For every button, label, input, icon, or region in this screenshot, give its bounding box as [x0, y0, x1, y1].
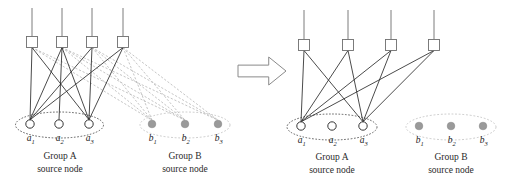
hollow-node-circle	[26, 120, 34, 128]
dashed-link-r1-b1	[32, 48, 152, 121]
link-r3-a1	[301, 51, 391, 122]
group-caption-group-b: Group Bsource node	[428, 152, 474, 175]
transition-arrow	[238, 57, 286, 85]
node-label-b2: b2	[182, 133, 191, 145]
hollow-node-circle	[328, 122, 336, 130]
node-label-subscript: 1	[154, 138, 157, 145]
filled-node-circle	[148, 120, 156, 128]
panel-before: a1a2a3Group Asource nodeb1b2b3Group Bsou…	[16, 8, 231, 174]
relay-r2[interactable]	[57, 8, 68, 48]
group-title: Group A	[44, 151, 77, 161]
topology-figure: a1a2a3Group Asource nodeb1b2b3Group Bsou…	[0, 0, 518, 190]
source-node-a1[interactable]: a1	[26, 120, 35, 145]
link-r1-a1	[301, 51, 304, 122]
node-label-subscript: 1	[32, 138, 35, 145]
solid-links-after	[301, 51, 434, 122]
link-r3-a1	[30, 48, 92, 120]
source-node-a2[interactable]: a2	[55, 120, 65, 145]
node-label-a1: a1	[27, 133, 35, 145]
figure-canvas: a1a2a3Group Asource nodeb1b2b3Group Bsou…	[0, 0, 518, 190]
group-subtitle: source node	[309, 165, 355, 175]
dashed-link-r4-b3	[123, 48, 218, 121]
dashed-link-r4-b2	[123, 48, 185, 121]
relay-node-square	[87, 37, 98, 48]
relay-r3[interactable]	[386, 10, 397, 51]
node-label-b3: b3	[215, 133, 224, 145]
node-label-a3: a3	[360, 135, 369, 147]
relay-node-square	[386, 40, 397, 51]
dashed-link-r3-b1	[92, 48, 152, 121]
link-r2-a1	[30, 48, 62, 120]
filled-node-circle	[181, 120, 189, 128]
node-label-a1: a1	[298, 135, 306, 147]
relay-r3[interactable]	[87, 8, 98, 48]
node-label-a2: a2	[56, 133, 65, 145]
hollow-node-circle	[297, 122, 305, 130]
node-label-subscript: 3	[219, 138, 224, 145]
relay-node-square	[343, 40, 354, 51]
panel-after: a1a2a3Group Asource nodeb1b2b3Group Bsou…	[287, 10, 496, 175]
source-node-a3[interactable]: a3	[85, 120, 95, 145]
solid-links-before	[30, 48, 123, 120]
group-title: Group A	[316, 152, 349, 162]
hollow-node-circle	[55, 120, 63, 128]
node-label-subscript: 3	[484, 140, 489, 147]
relay-r1[interactable]	[299, 10, 310, 51]
link-r2-a1	[301, 51, 348, 122]
node-label-subscript: 1	[421, 140, 424, 147]
relay-r4[interactable]	[429, 10, 440, 51]
filled-node-circle	[415, 122, 423, 130]
group-caption-group-b: Group Bsource node	[162, 151, 208, 174]
group-subtitle: source node	[428, 165, 474, 175]
group-caption-group-a: Group Asource node	[309, 152, 355, 175]
relay-r2[interactable]	[343, 10, 354, 51]
dashed-links-before	[32, 48, 218, 121]
group-title: Group B	[435, 152, 468, 162]
source-node-b2[interactable]: b2	[181, 120, 190, 144]
node-label-subscript: 1	[303, 140, 306, 147]
group-subtitle: source node	[37, 164, 83, 174]
node-label-b1: b1	[149, 133, 157, 145]
right-arrow-icon	[238, 57, 286, 85]
node-label-subscript: 2	[187, 138, 191, 145]
group-title: Group B	[169, 151, 202, 161]
source-node-b1[interactable]: b1	[415, 122, 424, 146]
node-label-subscript: 2	[453, 140, 457, 147]
group-caption-group-a: Group Asource node	[37, 151, 83, 174]
node-label-subscript: 2	[61, 138, 65, 145]
filled-node-circle	[214, 120, 222, 128]
source-node-a3[interactable]: a3	[359, 122, 369, 147]
link-r1-a1	[30, 48, 32, 120]
node-label-b2: b2	[448, 135, 457, 147]
node-label-subscript: 3	[90, 138, 95, 145]
hollow-node-circle	[359, 122, 367, 130]
relay-node-square	[299, 40, 310, 51]
group-subtitle: source node	[162, 164, 208, 174]
link-r4-a1	[30, 48, 123, 120]
node-label-b3: b3	[480, 135, 489, 147]
relay-node-square	[429, 40, 440, 51]
hollow-node-circle	[85, 120, 93, 128]
relay-r1[interactable]	[27, 8, 38, 48]
source-node-b2[interactable]: b2	[447, 122, 456, 146]
dashed-link-r3-b3	[92, 48, 218, 121]
link-r1-a3	[304, 51, 363, 122]
link-r2-a3	[348, 51, 363, 122]
node-label-a3: a3	[86, 133, 95, 145]
filled-node-circle	[447, 122, 455, 130]
relay-node-square	[57, 37, 68, 48]
source-node-b1[interactable]: b1	[148, 120, 157, 144]
node-label-a2: a2	[329, 135, 338, 147]
filled-node-circle	[479, 122, 487, 130]
source-node-a1[interactable]: a1	[297, 122, 306, 147]
node-label-subscript: 3	[364, 140, 369, 147]
relay-r4[interactable]	[118, 8, 129, 48]
relay-node-square	[118, 37, 129, 48]
source-node-a2[interactable]: a2	[328, 122, 338, 147]
node-label-subscript: 2	[334, 140, 338, 147]
link-r4-a3	[363, 51, 434, 122]
relay-node-square	[27, 37, 38, 48]
